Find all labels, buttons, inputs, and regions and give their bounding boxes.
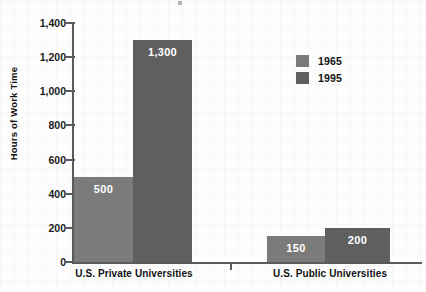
y-axis-tick-label: 400	[8, 189, 66, 199]
y-axis-tick-label: 600	[8, 155, 66, 165]
bar-value-label: 200	[325, 234, 390, 246]
bar-1995-public[interactable]: 200	[325, 228, 390, 262]
y-axis-tick	[66, 56, 75, 58]
y-axis-tick	[66, 159, 75, 161]
bar-1965-private[interactable]: 500	[74, 177, 133, 262]
legend-item-1965[interactable]: 1965	[296, 52, 342, 69]
x-axis-line	[72, 262, 422, 264]
legend-item-1995[interactable]: 1995	[296, 69, 342, 86]
category-label-private: U.S. Private Universities	[60, 268, 208, 279]
y-axis-tick	[66, 22, 75, 24]
bar-1995-private[interactable]: 1,300	[133, 40, 192, 262]
bar-value-label: 1,300	[133, 46, 192, 58]
category-label-public: U.S. Public Universities	[255, 268, 405, 279]
y-axis-tick-label: 1,400	[8, 18, 66, 28]
legend-swatch-icon	[296, 72, 309, 84]
legend-label: 1965	[318, 55, 342, 67]
y-axis-tick	[66, 90, 75, 92]
y-axis-tick-label: 800	[8, 120, 66, 130]
bar-value-label: 150	[267, 242, 325, 254]
legend-label: 1995	[318, 72, 342, 84]
scan-artifact	[178, 1, 182, 5]
y-axis-tick-label: 200	[8, 223, 66, 233]
y-axis-tick-label: 1,000	[8, 86, 66, 96]
bar-chart: Hours of Work Time 1,4001,2001,000800600…	[0, 0, 426, 292]
legend: 19651995	[296, 52, 342, 86]
y-axis-tick-label: 0	[8, 257, 66, 267]
bar-value-label: 500	[74, 183, 133, 195]
legend-swatch-icon	[296, 55, 309, 67]
x-axis-tick	[230, 264, 232, 270]
y-axis-tick-labels: 1,4001,2001,0008006004002000	[4, 0, 66, 292]
bar-1965-public[interactable]: 150	[267, 236, 325, 262]
y-axis-tick	[66, 124, 75, 126]
y-axis-tick-label: 1,200	[8, 52, 66, 62]
